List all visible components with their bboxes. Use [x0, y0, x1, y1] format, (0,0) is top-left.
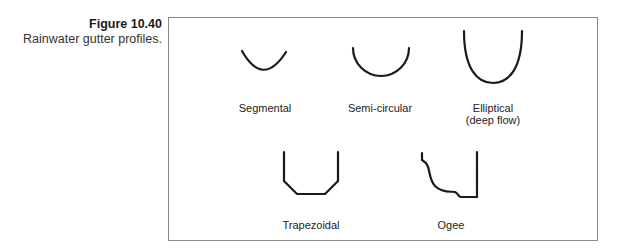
segmental-label: Segmental: [239, 102, 292, 114]
gutter-profiles-drawing: [0, 0, 631, 249]
elliptical-sublabel: (deep flow): [466, 114, 520, 126]
trapezoidal-label: Trapezoidal: [282, 219, 339, 231]
trapezoidal-profile-icon: [284, 152, 338, 194]
ogee-label: Ogee: [438, 219, 465, 231]
semi-circular-profile-icon: [353, 48, 409, 76]
elliptical-profile-icon: [464, 31, 522, 83]
elliptical-label: Elliptical: [473, 102, 513, 114]
semi-circular-label: Semi-circular: [348, 102, 412, 114]
segmental-profile-icon: [242, 51, 286, 70]
ogee-profile-icon: [422, 152, 477, 197]
